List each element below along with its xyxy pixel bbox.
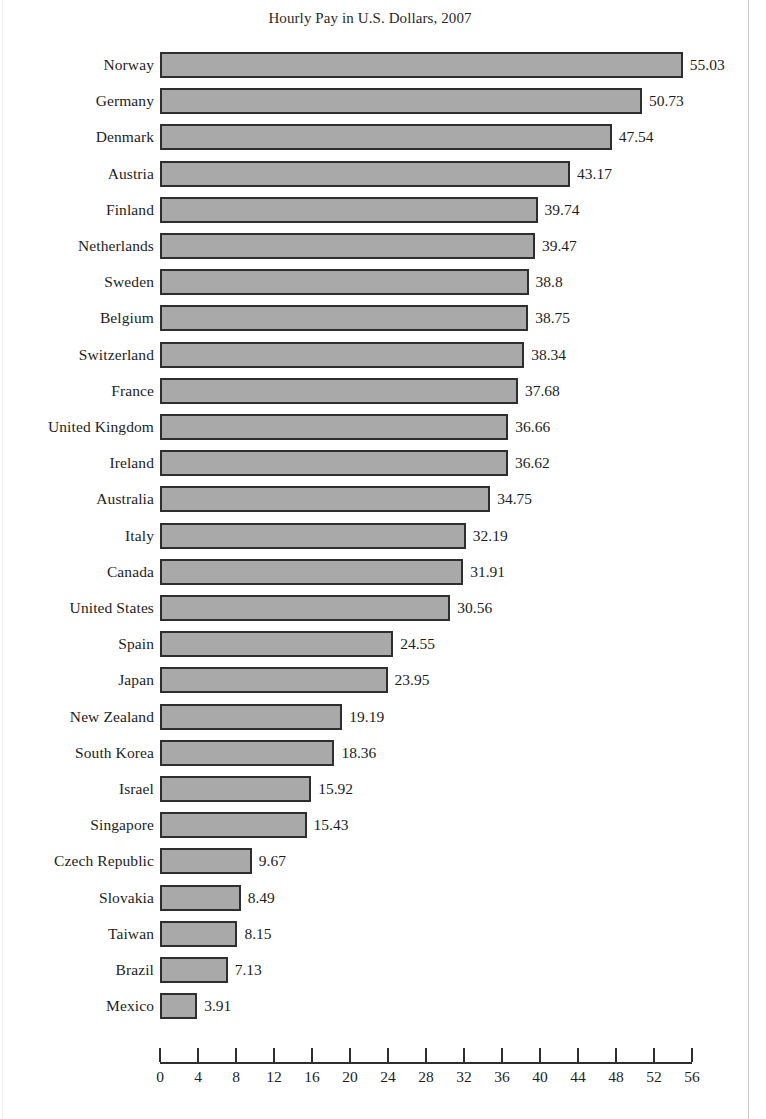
x-axis-tick (691, 1048, 693, 1062)
category-label: Mexico (106, 997, 154, 1015)
bar (160, 667, 388, 693)
bar-value-label: 36.62 (515, 454, 550, 472)
bar (160, 993, 197, 1019)
bar-row: Sweden38.8 (0, 269, 766, 295)
category-label: United States (70, 599, 154, 617)
bar-value-label: 47.54 (619, 128, 654, 146)
bar (160, 486, 490, 512)
bar-row: Japan23.95 (0, 667, 766, 693)
x-axis-tick-label: 0 (156, 1068, 164, 1086)
bar (160, 631, 393, 657)
bar-row: Brazil7.13 (0, 957, 766, 983)
bar-value-label: 34.75 (497, 490, 532, 508)
category-label: Israel (119, 780, 154, 798)
x-axis-tick-label: 48 (608, 1068, 624, 1086)
x-axis-tick-label: 32 (456, 1068, 472, 1086)
category-label: South Korea (75, 744, 154, 762)
bar-value-label: 7.13 (235, 961, 262, 979)
bar (160, 378, 518, 404)
bar-row: Germany50.73 (0, 88, 766, 114)
category-label: Ireland (109, 454, 154, 472)
x-axis-tick (615, 1048, 617, 1062)
bar-value-label: 38.8 (536, 273, 563, 291)
category-label: Norway (103, 56, 154, 74)
bar-value-label: 32.19 (473, 527, 508, 545)
category-label: Slovakia (99, 889, 154, 907)
bar-row: Australia34.75 (0, 486, 766, 512)
x-axis-tick-label: 40 (532, 1068, 548, 1086)
bar (160, 523, 466, 549)
bar (160, 957, 228, 983)
bar-value-label: 39.47 (542, 237, 577, 255)
category-label: Spain (118, 635, 154, 653)
bar-value-label: 8.49 (248, 889, 275, 907)
x-axis-tick (349, 1048, 351, 1062)
x-axis-tick-label: 8 (232, 1068, 240, 1086)
category-label: Singapore (90, 816, 154, 834)
bar-row: Taiwan8.15 (0, 921, 766, 947)
bar-row: Mexico3.91 (0, 993, 766, 1019)
bar-row: Slovakia8.49 (0, 885, 766, 911)
bar-row: South Korea18.36 (0, 740, 766, 766)
x-axis-tick-label: 44 (570, 1068, 586, 1086)
bar-value-label: 55.03 (690, 56, 725, 74)
category-label: Brazil (116, 961, 154, 979)
bar-row: Israel15.92 (0, 776, 766, 802)
x-axis-tick (387, 1048, 389, 1062)
x-axis-tick (501, 1048, 503, 1062)
bar (160, 595, 450, 621)
bar-row: Spain24.55 (0, 631, 766, 657)
bar (160, 921, 237, 947)
x-axis-tick (159, 1048, 161, 1062)
x-axis-tick-label: 16 (304, 1068, 320, 1086)
bar (160, 342, 524, 368)
x-axis-tick-label: 52 (646, 1068, 662, 1086)
bar-row: United Kingdom36.66 (0, 414, 766, 440)
bar-value-label: 15.92 (318, 780, 353, 798)
x-axis-tick-label: 36 (494, 1068, 510, 1086)
x-axis-tick-label: 28 (418, 1068, 434, 1086)
bar (160, 233, 535, 259)
bar (160, 88, 642, 114)
x-axis-tick-label: 20 (342, 1068, 358, 1086)
bar-value-label: 31.91 (470, 563, 505, 581)
x-axis-tick-label: 24 (380, 1068, 396, 1086)
bar-row: Switzerland38.34 (0, 342, 766, 368)
bar (160, 812, 307, 838)
x-axis-line (160, 1062, 692, 1064)
bar-row: Norway55.03 (0, 52, 766, 78)
bar-value-label: 50.73 (649, 92, 684, 110)
category-label: Czech Republic (54, 852, 154, 870)
bar (160, 450, 508, 476)
bar-value-label: 36.66 (515, 418, 550, 436)
bar (160, 124, 612, 150)
bar (160, 740, 334, 766)
bar-value-label: 19.19 (349, 708, 384, 726)
category-label: Sweden (104, 273, 154, 291)
x-axis-tick (311, 1048, 313, 1062)
category-label: France (111, 382, 154, 400)
bar-row: Canada31.91 (0, 559, 766, 585)
bar-value-label: 39.74 (545, 201, 580, 219)
category-label: Taiwan (108, 925, 154, 943)
bar (160, 559, 463, 585)
bar-value-label: 23.95 (395, 671, 430, 689)
bar-chart: Hourly Pay in U.S. Dollars, 2007 Norway5… (0, 0, 766, 1119)
bar-row: Denmark47.54 (0, 124, 766, 150)
bar-row: Belgium38.75 (0, 305, 766, 331)
bar (160, 776, 311, 802)
bar-value-label: 9.67 (259, 852, 286, 870)
bar-value-label: 15.43 (314, 816, 349, 834)
bar-row: Austria43.17 (0, 161, 766, 187)
bar-row: Ireland36.62 (0, 450, 766, 476)
x-axis-tick (577, 1048, 579, 1062)
bar-row: Finland39.74 (0, 197, 766, 223)
bar-value-label: 8.15 (244, 925, 271, 943)
bar-row: Italy32.19 (0, 523, 766, 549)
bar-value-label: 37.68 (525, 382, 560, 400)
x-axis-tick-label: 4 (194, 1068, 202, 1086)
bar-row: United States30.56 (0, 595, 766, 621)
bar (160, 52, 683, 78)
x-axis-tick (653, 1048, 655, 1062)
category-label: Switzerland (79, 346, 154, 364)
